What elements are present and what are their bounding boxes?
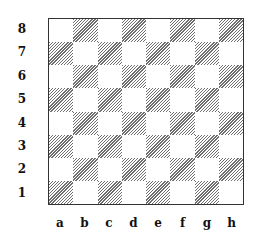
square-a7 (49, 42, 73, 65)
square-f7 (170, 42, 194, 65)
file-label: h (220, 216, 244, 230)
square-b2 (73, 158, 97, 181)
square-h2 (219, 158, 243, 181)
square-d5 (122, 88, 146, 111)
square-b7 (73, 42, 97, 65)
square-c7 (98, 42, 122, 65)
square-g2 (195, 158, 219, 181)
rank-label: 1 (14, 186, 30, 200)
square-b4 (73, 112, 97, 135)
square-a2 (49, 158, 73, 181)
square-b8 (73, 19, 97, 42)
square-d6 (122, 65, 146, 88)
square-g7 (195, 42, 219, 65)
file-label: f (171, 216, 195, 230)
square-h7 (219, 42, 243, 65)
square-g4 (195, 112, 219, 135)
rank-label: 6 (14, 69, 30, 83)
square-e3 (146, 135, 170, 158)
square-g6 (195, 65, 219, 88)
square-d1 (122, 181, 146, 204)
file-label: e (146, 216, 170, 230)
square-b6 (73, 65, 97, 88)
square-g8 (195, 19, 219, 42)
rank-label: 2 (14, 162, 30, 176)
square-f8 (170, 19, 194, 42)
square-g5 (195, 88, 219, 111)
file-label: b (73, 216, 97, 230)
square-a1 (49, 181, 73, 204)
square-e6 (146, 65, 170, 88)
square-a8 (49, 19, 73, 42)
square-d3 (122, 135, 146, 158)
square-e1 (146, 181, 170, 204)
rank-label: 4 (14, 116, 30, 130)
square-b1 (73, 181, 97, 204)
square-h6 (219, 65, 243, 88)
square-d8 (122, 19, 146, 42)
square-d2 (122, 158, 146, 181)
chessboard (48, 18, 244, 205)
square-a4 (49, 112, 73, 135)
square-c3 (98, 135, 122, 158)
square-h3 (219, 135, 243, 158)
rank-label: 5 (14, 92, 30, 106)
square-f1 (170, 181, 194, 204)
file-label: c (97, 216, 121, 230)
square-c8 (98, 19, 122, 42)
rank-label: 7 (14, 45, 30, 59)
square-c1 (98, 181, 122, 204)
square-g1 (195, 181, 219, 204)
square-e7 (146, 42, 170, 65)
rank-label: 8 (14, 22, 30, 36)
square-h1 (219, 181, 243, 204)
square-c2 (98, 158, 122, 181)
square-e4 (146, 112, 170, 135)
square-f3 (170, 135, 194, 158)
file-label: a (48, 216, 72, 230)
square-f5 (170, 88, 194, 111)
square-a5 (49, 88, 73, 111)
square-c6 (98, 65, 122, 88)
square-d7 (122, 42, 146, 65)
square-h8 (219, 19, 243, 42)
square-e5 (146, 88, 170, 111)
square-f4 (170, 112, 194, 135)
square-e2 (146, 158, 170, 181)
square-c5 (98, 88, 122, 111)
square-d4 (122, 112, 146, 135)
square-c4 (98, 112, 122, 135)
square-e8 (146, 19, 170, 42)
square-h5 (219, 88, 243, 111)
square-f6 (170, 65, 194, 88)
square-b5 (73, 88, 97, 111)
square-h4 (219, 112, 243, 135)
file-label: d (122, 216, 146, 230)
square-b3 (73, 135, 97, 158)
file-label: g (195, 216, 219, 230)
square-g3 (195, 135, 219, 158)
square-a3 (49, 135, 73, 158)
rank-label: 3 (14, 139, 30, 153)
square-f2 (170, 158, 194, 181)
square-a6 (49, 65, 73, 88)
